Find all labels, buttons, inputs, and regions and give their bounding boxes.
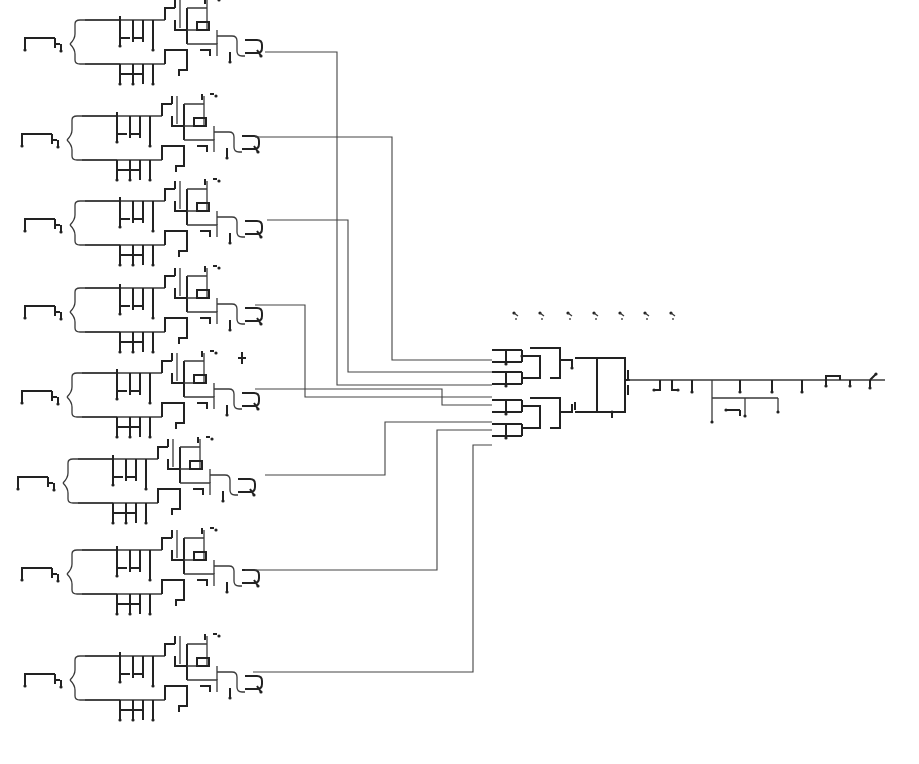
combiner-segment-8 bbox=[560, 360, 572, 412]
node-dot bbox=[690, 390, 693, 393]
node-dot bbox=[151, 263, 154, 266]
bus-wire-8 bbox=[253, 445, 492, 672]
bus-wires bbox=[245, 52, 492, 672]
transistor-lower bbox=[162, 146, 184, 172]
node-dot bbox=[214, 94, 217, 97]
output-connector bbox=[242, 570, 259, 583]
port-symbol-lines bbox=[620, 313, 624, 320]
node-dot bbox=[148, 578, 151, 581]
bias-upper bbox=[173, 439, 200, 469]
transistor-upper bbox=[162, 96, 184, 126]
node-dot bbox=[228, 328, 231, 331]
input-match bbox=[52, 568, 58, 580]
node-dot bbox=[115, 574, 118, 577]
node-dot bbox=[824, 384, 827, 387]
stage-1 bbox=[23, 0, 262, 86]
transistor-lower bbox=[165, 686, 187, 712]
combiner-segment-6 bbox=[522, 356, 540, 428]
node-dot bbox=[776, 410, 779, 413]
node-dot bbox=[259, 54, 262, 57]
node-dot bbox=[217, 179, 220, 182]
node-dot bbox=[111, 521, 114, 524]
transistor-upper bbox=[162, 353, 184, 383]
node-dot bbox=[59, 230, 62, 233]
circuit-schematic bbox=[0, 0, 919, 764]
node-dot bbox=[520, 354, 523, 357]
splitter-lower bbox=[67, 140, 117, 160]
port-symbol-icon bbox=[618, 311, 624, 320]
lower-stubs bbox=[117, 160, 140, 180]
output-stub-pair bbox=[654, 380, 678, 390]
node-dot bbox=[151, 48, 154, 51]
splitter-lower bbox=[63, 483, 113, 503]
node-dot bbox=[56, 145, 59, 148]
lower-stubs bbox=[120, 332, 143, 352]
transistor-lower bbox=[165, 231, 187, 257]
transistor-lower bbox=[165, 50, 187, 76]
node-dot bbox=[115, 435, 118, 438]
input-match bbox=[55, 219, 61, 231]
stage-4 bbox=[23, 266, 262, 354]
node-dot bbox=[148, 401, 151, 404]
schematic-canvas bbox=[0, 0, 919, 764]
input-match bbox=[52, 391, 58, 403]
port-symbol-lines bbox=[568, 313, 572, 320]
bus-wire-3 bbox=[267, 220, 492, 372]
bias-upper bbox=[180, 268, 207, 298]
node-dot bbox=[210, 437, 213, 440]
splitter-lower bbox=[70, 312, 120, 332]
node-dot bbox=[570, 366, 573, 369]
node-dot bbox=[56, 402, 59, 405]
node-dot bbox=[118, 44, 121, 47]
node-dot bbox=[874, 372, 877, 375]
floating-symbols bbox=[512, 311, 675, 320]
lower-stubs bbox=[117, 417, 140, 437]
port-symbol-lines bbox=[514, 313, 518, 320]
lower-stubs bbox=[120, 700, 143, 720]
tuning-box bbox=[200, 318, 210, 324]
transistor-upper bbox=[165, 636, 187, 666]
node-dot bbox=[151, 316, 154, 319]
input-match bbox=[55, 306, 61, 318]
output-connector bbox=[245, 221, 262, 234]
node-dot bbox=[217, 0, 220, 2]
node-dot bbox=[259, 322, 262, 325]
node-dot bbox=[676, 388, 679, 391]
output-connector bbox=[245, 308, 262, 321]
port-symbol-icon bbox=[669, 311, 675, 320]
input-line bbox=[22, 391, 52, 397]
node-dot bbox=[148, 435, 151, 438]
bias-upper bbox=[180, 181, 207, 211]
node-dot bbox=[118, 718, 121, 721]
tuning-box bbox=[200, 50, 210, 56]
node-dot bbox=[52, 488, 55, 491]
bus-wire-7 bbox=[245, 430, 492, 570]
combiner-network bbox=[492, 348, 630, 440]
node-dot bbox=[259, 690, 262, 693]
port-symbol-icon bbox=[592, 311, 598, 320]
node-dot bbox=[111, 483, 114, 486]
amplifier-stages bbox=[16, 0, 262, 722]
stage-8 bbox=[23, 634, 262, 722]
lower-stubs bbox=[113, 503, 136, 523]
transistor-upper bbox=[165, 0, 187, 30]
node-dot bbox=[118, 225, 121, 228]
node-dot bbox=[256, 584, 259, 587]
splitter-lower bbox=[70, 44, 120, 64]
input-line bbox=[25, 219, 55, 225]
node-dot bbox=[214, 351, 217, 354]
node-dot bbox=[115, 140, 118, 143]
port-symbol-icon bbox=[538, 311, 544, 320]
node-dot bbox=[118, 350, 121, 353]
node-dot bbox=[115, 612, 118, 615]
node-dot bbox=[118, 82, 121, 85]
node-dot bbox=[144, 487, 147, 490]
combiner-segment-9 bbox=[575, 358, 597, 412]
node-dot bbox=[504, 412, 507, 415]
node-dot bbox=[148, 144, 151, 147]
node-dot bbox=[118, 312, 121, 315]
lower-stubs bbox=[120, 64, 143, 84]
node-dot bbox=[59, 317, 62, 320]
tuning-box bbox=[200, 231, 210, 237]
stage-3 bbox=[23, 179, 262, 267]
